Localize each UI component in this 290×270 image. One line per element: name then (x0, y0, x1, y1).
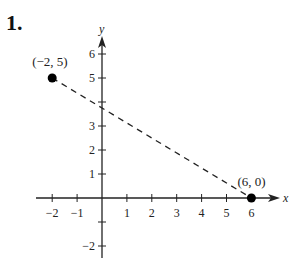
y-axis-label: y (98, 22, 105, 36)
x-tick-label: 4 (199, 206, 205, 220)
x-tick-label: 2 (149, 206, 155, 220)
y-tick-label: 2 (89, 143, 95, 157)
dashed-segment (52, 78, 251, 198)
y-tick-label: 5 (89, 71, 95, 85)
data-point (247, 194, 256, 203)
point-label: (6, 0) (237, 174, 265, 189)
y-tick-label: −2 (82, 239, 95, 253)
coordinate-plane: xy−2−1123456−212356(−2, 5)(6, 0) (0, 0, 290, 270)
x-tick-label: 1 (124, 206, 130, 220)
x-tick-label: −1 (71, 206, 84, 220)
y-tick-label: 1 (89, 167, 95, 181)
point-label: (−2, 5) (32, 54, 67, 69)
x-tick-label: 5 (224, 206, 230, 220)
x-tick-label: 6 (248, 206, 254, 220)
data-point (48, 74, 57, 83)
x-tick-label: −2 (46, 206, 59, 220)
x-tick-label: 3 (174, 206, 180, 220)
y-tick-label: 6 (89, 47, 95, 61)
x-axis-label: x (282, 191, 289, 205)
y-tick-label: 3 (89, 119, 95, 133)
